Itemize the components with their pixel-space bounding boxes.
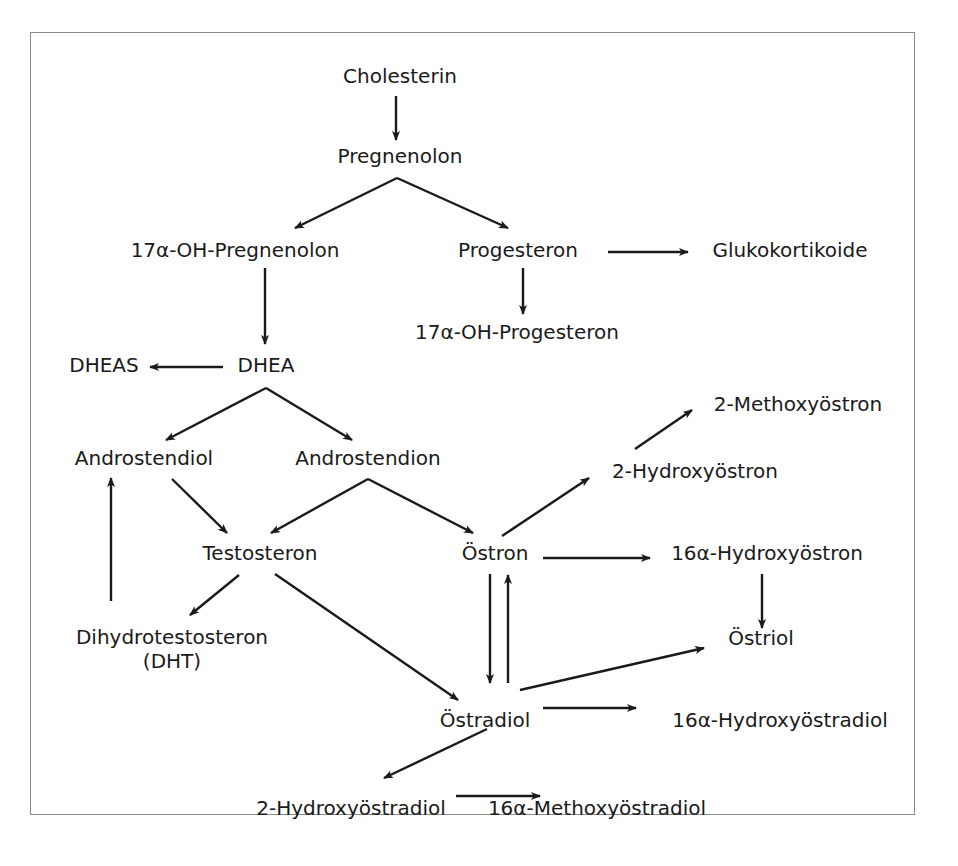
node-androstendion: Androstendion xyxy=(295,446,440,470)
node-hydroxyoestron-2: 2-Hydroxyöstron xyxy=(612,459,778,483)
arrow-androstendion-to-oestron xyxy=(368,479,473,533)
node-progesteron: Progesteron xyxy=(458,238,578,262)
arrow-oestron-to-hydroxyoestron-2 xyxy=(502,478,589,536)
arrow-oestradiol-to-hydroxyoestradiol-2 xyxy=(384,729,487,778)
arrow-pregnenolon-to-progesteron xyxy=(397,178,508,228)
arrow-androstendiol-to-testosteron xyxy=(172,479,227,533)
arrow-testosteron-to-oestradiol xyxy=(275,574,458,700)
arrow-hydroxyoestron-2-to-methoxyoestron-2 xyxy=(635,410,692,449)
node-hydroxyoestradiol-16a: 16α-Hydroxyöstradiol xyxy=(672,708,888,732)
node-methoxyoestradiol-16a: 16α-Methoxyöstradiol xyxy=(488,796,706,820)
arrow-dhea-to-androstendion xyxy=(266,388,352,440)
node-testosteron: Testosteron xyxy=(203,541,318,565)
arrow-androstendion-to-testosteron xyxy=(271,479,368,533)
arrow-pregnenolon-to-oh-pregnenolon xyxy=(295,178,397,228)
arrow-dhea-to-androstendiol xyxy=(166,388,266,440)
node-dheas: DHEAS xyxy=(69,353,138,377)
node-oestron: Östron xyxy=(462,541,529,565)
arrow-testosteron-to-dht xyxy=(190,575,239,615)
node-dhea: DHEA xyxy=(238,353,295,377)
node-cholesterin: Cholesterin xyxy=(343,64,457,88)
node-oh-pregnenolon: 17α-OH-Pregnenolon xyxy=(131,238,340,262)
arrow-oestradiol-to-oestriol xyxy=(520,648,704,690)
node-dht: Dihydrotestosteron (DHT) xyxy=(76,625,268,673)
node-oh-progesteron: 17α-OH-Progesteron xyxy=(415,320,619,344)
node-androstendiol: Androstendiol xyxy=(75,446,213,470)
node-methoxyoestron-2: 2-Methoxyöstron xyxy=(714,392,883,416)
node-hydroxyoestradiol-2: 2-Hydroxyöstradiol xyxy=(256,796,446,820)
node-oestradiol: Östradiol xyxy=(440,708,531,732)
node-hydroxyoestron-16a: 16α-Hydroxyöstron xyxy=(671,541,863,565)
node-oestriol: Östriol xyxy=(728,626,794,650)
edge-layer xyxy=(0,0,958,866)
node-glukokortikoide: Glukokortikoide xyxy=(712,238,867,262)
node-pregnenolon: Pregnenolon xyxy=(338,144,463,168)
